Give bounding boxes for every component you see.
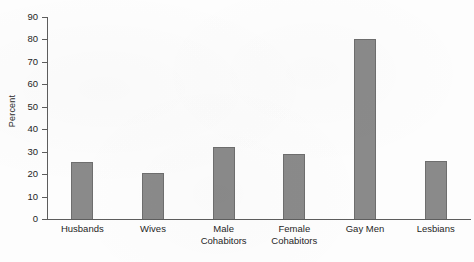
y-axis-tick-label: 40	[27, 123, 38, 134]
y-axis-tick-mark	[42, 152, 47, 153]
y-axis-tick-label: 0	[33, 213, 38, 224]
y-axis-tick-mark	[42, 17, 47, 18]
x-axis-category-label: Husbands	[47, 223, 118, 235]
y-axis-tick-label: 80	[27, 33, 38, 44]
bar-chart-figure: Percent 0102030405060708090 HusbandsWive…	[0, 0, 474, 262]
y-axis-tick-label: 90	[27, 11, 38, 22]
y-axis-tick-mark	[42, 219, 47, 220]
x-axis-category-labels: HusbandsWivesMale CohabitorsFemale Cohab…	[47, 223, 471, 261]
x-axis-category-label: Female Cohabitors	[259, 223, 330, 246]
y-axis-tick-mark	[42, 84, 47, 85]
x-axis-category-label: Wives	[118, 223, 189, 235]
y-axis-title: Percent	[2, 0, 22, 222]
y-axis-title-text: Percent	[7, 95, 17, 127]
y-axis-tick-mark	[42, 107, 47, 108]
y-axis-tick-label: 10	[27, 191, 38, 202]
x-axis-spine	[47, 219, 471, 220]
bar	[213, 147, 235, 219]
x-axis-category-label: Lesbians	[400, 223, 471, 235]
y-axis-tick-label: 20	[27, 168, 38, 179]
x-axis-category-label: Gay Men	[330, 223, 401, 235]
bar	[142, 173, 164, 219]
x-axis-category-label: Male Cohabitors	[188, 223, 259, 246]
bar	[354, 39, 376, 219]
y-axis-spine	[47, 17, 48, 219]
bar	[425, 161, 447, 219]
y-axis-tick-mark	[42, 197, 47, 198]
y-axis-tick-mark	[42, 129, 47, 130]
plot-area: 0102030405060708090	[47, 17, 471, 219]
y-axis-tick-label: 50	[27, 101, 38, 112]
y-axis-tick-mark	[42, 39, 47, 40]
bar	[71, 162, 93, 219]
bar	[283, 154, 305, 219]
y-axis-tick-label: 70	[27, 56, 38, 67]
y-axis-tick-label: 30	[27, 146, 38, 157]
y-axis-tick-label: 60	[27, 78, 38, 89]
y-axis-tick-mark	[42, 174, 47, 175]
y-axis-tick-mark	[42, 62, 47, 63]
